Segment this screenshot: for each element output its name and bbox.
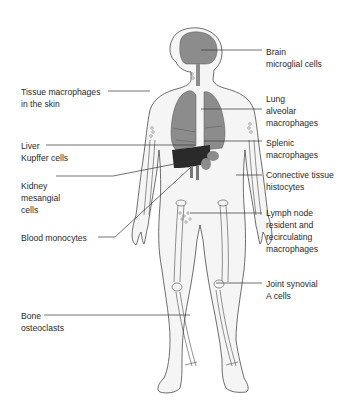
label-lung-line2: alveolar <box>266 105 318 117</box>
label-connective: Connective tissue histocytes <box>266 169 334 193</box>
label-skin: Tissue macrophages in the skin <box>21 86 100 110</box>
brain-organ <box>180 32 217 64</box>
label-lung: Lung alveolar macrophages <box>266 93 318 129</box>
label-kidney-line2: mesangial <box>21 192 60 204</box>
label-kidney-line3: cells <box>21 204 60 216</box>
label-lymph-line4: macrophages <box>266 243 318 255</box>
label-skin-line2: in the skin <box>21 98 100 110</box>
label-lung-line3: macrophages <box>266 117 318 129</box>
body-outline <box>132 28 272 393</box>
label-brain-line1: Brain <box>266 46 322 58</box>
label-liver-line2: Kupffer cells <box>21 152 68 164</box>
label-skin-line1: Tissue macrophages <box>21 86 100 98</box>
label-blood: Blood monocytes <box>21 232 87 244</box>
label-bone-line1: Bone <box>21 310 64 322</box>
label-liver-line1: Liver <box>21 140 68 152</box>
label-joint-line2: A cells <box>266 290 318 302</box>
label-kidney: Kidney mesangial cells <box>21 180 60 216</box>
label-blood-line1: Blood monocytes <box>21 232 87 244</box>
label-lymph-line3: recirculating <box>266 231 318 243</box>
label-lymph-line1: Lymph node <box>266 207 318 219</box>
label-liver: Liver Kupffer cells <box>21 140 68 164</box>
label-joint: Joint synovial A cells <box>266 278 318 302</box>
label-spleen-line1: Splenic <box>266 137 318 149</box>
label-lymph-line2: resident and <box>266 219 318 231</box>
label-spleen: Splenic macrophages <box>266 137 318 161</box>
label-bone-line2: osteoclasts <box>21 322 64 334</box>
label-brain: Brain microglial cells <box>266 46 322 70</box>
label-connective-line2: histocytes <box>266 181 334 193</box>
label-joint-line1: Joint synovial <box>266 278 318 290</box>
label-lymph: Lymph node resident and recirculating ma… <box>266 207 318 255</box>
spinal-cord <box>196 64 200 86</box>
label-connective-line1: Connective tissue <box>266 169 334 181</box>
label-spleen-line2: macrophages <box>266 149 318 161</box>
label-bone: Bone osteoclasts <box>21 310 64 334</box>
label-lung-line1: Lung <box>266 93 318 105</box>
label-kidney-line1: Kidney <box>21 180 60 192</box>
kidney-organ <box>201 158 211 170</box>
label-brain-line2: microglial cells <box>266 58 322 70</box>
